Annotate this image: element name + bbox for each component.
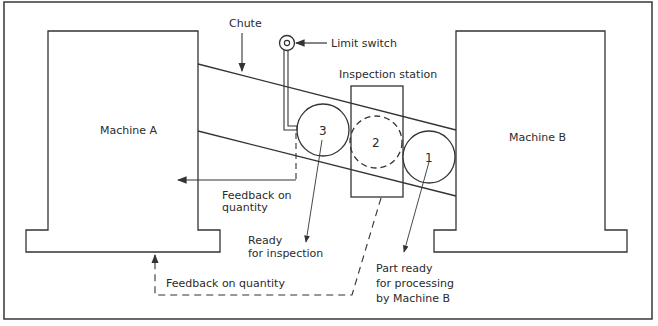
outer-frame bbox=[4, 2, 652, 319]
part-3-number: 3 bbox=[319, 124, 327, 138]
part-ready-line2: for processing bbox=[376, 277, 454, 290]
part-ready-line3: by Machine B bbox=[376, 292, 450, 305]
part-ready-line1: Part ready bbox=[376, 262, 433, 275]
ready-label-line2: for inspection bbox=[248, 247, 323, 260]
ready-label-line1: Ready bbox=[248, 234, 283, 247]
limit-switch-lever bbox=[284, 50, 297, 130]
limit-switch-outer bbox=[280, 36, 295, 51]
feedback-top-label-line2: quantity bbox=[222, 201, 268, 214]
feedback-bottom-label: Feedback on quantity bbox=[166, 277, 285, 290]
inspection-station-label: Inspection station bbox=[339, 68, 437, 81]
diagram-canvas: Machine A Machine B Chute Inspection sta… bbox=[0, 0, 658, 326]
part-2-number: 2 bbox=[372, 136, 380, 150]
machine-a-body bbox=[26, 31, 220, 252]
machine-b-label: Machine B bbox=[509, 131, 566, 144]
limit-switch-label: Limit switch bbox=[331, 37, 397, 50]
chute-label: Chute bbox=[229, 17, 262, 30]
machine-a-label: Machine A bbox=[100, 124, 158, 137]
ready-for-inspection-arrow bbox=[306, 140, 322, 242]
